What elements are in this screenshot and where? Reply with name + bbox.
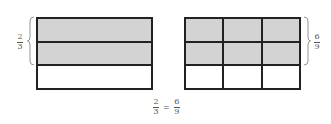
model-cell-shaded — [37, 42, 152, 66]
model-cell-shaded — [185, 42, 223, 66]
equivalence-equation: 2 3 = 6 9 — [153, 98, 180, 116]
denominator: 9 — [174, 108, 179, 116]
numerator: 2 — [153, 98, 158, 106]
model-cell-shaded — [223, 18, 261, 42]
equation-left-fraction: 2 3 — [153, 98, 159, 116]
denominator: 9 — [314, 43, 319, 51]
right-fraction-label: 6 9 — [314, 33, 320, 51]
numerator: 2 — [17, 33, 22, 41]
model-cell-shaded — [37, 18, 152, 42]
right-brace-icon — [303, 16, 311, 66]
denominator: 3 — [153, 108, 158, 116]
model-cell-unshaded — [185, 65, 223, 89]
left-brace-icon — [27, 16, 35, 66]
model-cell-shaded — [262, 42, 300, 66]
numerator: 6 — [174, 98, 179, 106]
model-cell-shaded — [223, 42, 261, 66]
model-cell-shaded — [262, 18, 300, 42]
model-cell-unshaded — [262, 65, 300, 89]
left-fraction-model — [36, 17, 153, 90]
denominator: 3 — [17, 43, 22, 51]
equals-sign: = — [163, 103, 170, 112]
numerator: 6 — [314, 33, 319, 41]
equation-right-fraction: 6 9 — [174, 98, 180, 116]
model-cell-shaded — [185, 18, 223, 42]
left-fraction-label: 2 3 — [17, 33, 23, 51]
right-fraction-model — [184, 17, 301, 90]
model-cell-unshaded — [223, 65, 261, 89]
model-cell-unshaded — [37, 65, 152, 89]
